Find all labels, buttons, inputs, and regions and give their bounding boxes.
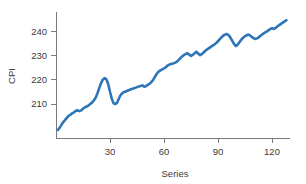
y-tick-label: 220 (31, 74, 47, 85)
x-tick-label: 60 (159, 146, 170, 157)
x-tick-label: 120 (264, 146, 280, 157)
cpi-series-chart: 210220230240 306090120 CPI Series (0, 0, 306, 184)
y-tick-label: 210 (31, 98, 47, 109)
x-tick-label: 90 (213, 146, 224, 157)
x-axis-title: Series (162, 168, 189, 179)
y-tick-label: 240 (31, 26, 47, 37)
y-axis-title: CPI (6, 68, 17, 84)
y-tick-label: 230 (31, 50, 47, 61)
chart-canvas: 210220230240 306090120 CPI Series (0, 0, 306, 184)
x-tick-label: 30 (105, 146, 116, 157)
